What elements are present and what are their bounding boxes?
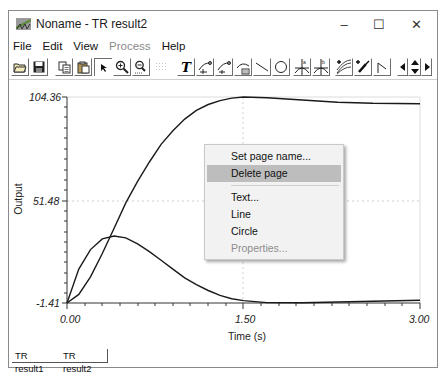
cursor-b-icon: b [313, 59, 329, 75]
zoom-in-icon [115, 60, 129, 74]
text-tool-icon: T [181, 60, 191, 75]
maximize-button[interactable]: ☐ [364, 14, 394, 34]
x-tick-label-min: 0.00 [60, 313, 80, 325]
menu-process[interactable]: Process [105, 38, 155, 55]
step-line-button[interactable] [373, 58, 391, 76]
y-tick-label-mid: 51.48 [33, 195, 59, 207]
page-tabs: TR result1 TR result2 [9, 349, 437, 363]
x-tick-label-mid: 1.50 [235, 313, 255, 325]
add-curve-icon [336, 59, 352, 75]
zoom-in-button[interactable] [113, 58, 131, 76]
y-tick-label-min: -1.41 [36, 297, 60, 309]
menu-item-delete-page[interactable]: Delete page [207, 165, 341, 182]
paste-button[interactable] [74, 58, 92, 76]
circle-tool-icon [274, 60, 288, 74]
menu-item-line[interactable]: Line [207, 206, 341, 223]
app-window: Noname - TR result2 – ☐ ✕ File Edit View… [8, 10, 438, 368]
x-axis-ticks [67, 303, 420, 309]
cursor-a-icon: a [294, 59, 310, 75]
line-tool-button[interactable] [253, 58, 271, 76]
pan-left-icon [400, 63, 406, 71]
paste-icon [77, 61, 90, 74]
pointer-arrow-icon [100, 63, 108, 73]
y-tick-label-max: 104.36 [29, 91, 61, 103]
toolbar: T a b [9, 55, 437, 80]
open-folder-icon [13, 61, 27, 73]
step-line-icon [375, 60, 389, 74]
pan-right-button[interactable] [421, 58, 432, 76]
curve-table-button[interactable] [234, 58, 252, 76]
pointer-tool-button[interactable] [94, 58, 112, 76]
menu-view[interactable]: View [69, 38, 102, 55]
pan-right-icon [424, 63, 430, 71]
add-probe-icon [355, 59, 371, 75]
grid-icon [154, 61, 168, 73]
curve-marker-1-button[interactable] [196, 58, 214, 76]
svg-text:b: b [322, 59, 325, 65]
cursor-b-button[interactable]: b [312, 58, 330, 76]
pan-up-down-button[interactable] [408, 58, 421, 76]
window-title: Noname - TR result2 [36, 17, 147, 31]
grid-button[interactable] [152, 58, 170, 76]
add-curve-button[interactable] [335, 58, 353, 76]
copy-button[interactable] [55, 58, 73, 76]
menu-item-properties: Properties... [207, 240, 341, 257]
cursor-a-button[interactable]: a [293, 58, 311, 76]
maximize-icon: ☐ [373, 17, 385, 32]
save-disk-icon [33, 61, 45, 73]
minimize-button[interactable]: – [329, 14, 359, 34]
curve-marker-1-icon [198, 60, 213, 75]
y-axis-ticks [62, 97, 67, 303]
menu-item-text[interactable]: Text... [207, 189, 341, 206]
text-tool-button[interactable]: T [177, 58, 195, 76]
menu-item-circle[interactable]: Circle [207, 223, 341, 240]
context-menu: Set page name... Delete page Text... Lin… [204, 144, 344, 260]
x-axis-title: Time (s) [228, 330, 266, 342]
y-axis-title: Output [12, 183, 24, 215]
tab-tr-result2[interactable]: TR result2 [60, 349, 108, 363]
menu-item-set-page-name[interactable]: Set page name... [207, 148, 341, 165]
tab-tr-result1[interactable]: TR result1 [12, 349, 60, 363]
close-button[interactable]: ✕ [401, 14, 431, 34]
minimize-icon: – [340, 17, 347, 32]
line-tool-icon [255, 61, 269, 73]
menu-edit[interactable]: Edit [39, 38, 67, 55]
menu-bar: File Edit View Process Help [9, 38, 437, 55]
zoom-out-button[interactable] [132, 58, 150, 76]
pan-left-button[interactable] [397, 58, 408, 76]
app-logo-icon [16, 18, 31, 30]
save-button[interactable] [30, 58, 48, 76]
copy-icon [58, 61, 71, 74]
curve-marker-2-button[interactable] [215, 58, 233, 76]
zoom-out-100-icon [134, 60, 148, 74]
menu-file[interactable]: File [9, 38, 36, 55]
circle-tool-button[interactable] [272, 58, 290, 76]
pan-up-down-icon [411, 60, 419, 74]
menu-separator [231, 185, 339, 186]
close-icon: ✕ [411, 17, 422, 32]
curve-table-icon [236, 60, 251, 75]
x-tick-label-max: 3.00 [409, 313, 429, 325]
add-probe-button[interactable] [354, 58, 372, 76]
title-bar: Noname - TR result2 – ☐ ✕ [9, 11, 437, 38]
curve-marker-2-icon [217, 60, 232, 75]
open-button[interactable] [11, 58, 29, 76]
menu-help[interactable]: Help [158, 38, 190, 55]
svg-text:a: a [303, 59, 306, 65]
